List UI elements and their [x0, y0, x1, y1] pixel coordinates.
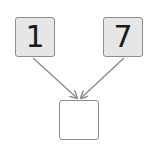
- arrow-right-to-result: [81, 58, 124, 98]
- right-number: 7: [113, 22, 132, 52]
- right-number-box: 7: [103, 17, 143, 57]
- left-number-box: 1: [15, 17, 55, 57]
- arrow-left-to-result: [33, 58, 77, 98]
- result-answer-box[interactable]: [59, 100, 99, 140]
- left-number: 1: [25, 22, 44, 52]
